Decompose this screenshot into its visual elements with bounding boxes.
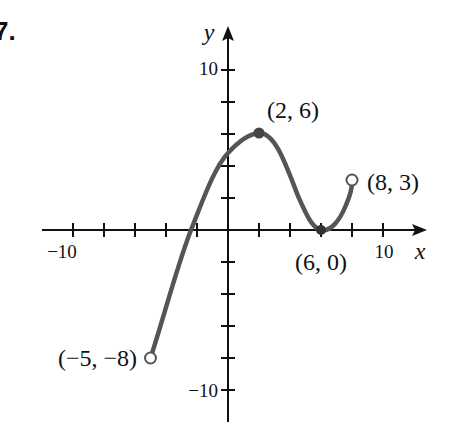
function-curve (151, 133, 353, 358)
x-axis-label: x (414, 238, 426, 264)
x-tick-label-neg10: −10 (47, 241, 77, 262)
open-endpoint-end (347, 175, 358, 186)
point-label-min: (6, 0) (295, 249, 347, 275)
point-label-max: (2, 6) (267, 97, 319, 123)
local-max-point (254, 128, 265, 139)
y-tick-label-neg10: −10 (188, 380, 218, 401)
x-tick-label-10: 10 (375, 241, 394, 262)
y-tick-label-10: 10 (199, 58, 218, 79)
function-graph: −10 10 10 −10 x y (−5, −8) (2, 6) (6, 0)… (0, 0, 453, 440)
y-axis-label: y (202, 19, 215, 45)
local-min-point (316, 225, 326, 235)
point-label-start: (−5, −8) (58, 345, 137, 371)
y-axis (221, 26, 235, 422)
point-label-end: (8, 3) (367, 169, 419, 195)
x-axis (42, 223, 427, 237)
open-endpoint-start (145, 353, 156, 364)
